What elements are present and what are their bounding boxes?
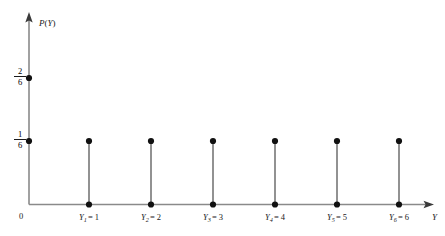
y-tick-marker-two-sixths xyxy=(26,75,32,81)
y-axis-title: P(Y) xyxy=(39,19,56,28)
data-point-3 xyxy=(210,138,216,144)
chart-canvas xyxy=(0,0,445,236)
baseline-point-5 xyxy=(334,201,340,207)
y-tick-one-sixth-numerator: 1 xyxy=(14,130,26,139)
x-tick-label-6: Y6= 6 xyxy=(389,213,409,223)
x-tick-6-value: = 6 xyxy=(397,212,409,222)
data-point-2 xyxy=(148,138,154,144)
x-tick-5-value: = 5 xyxy=(335,212,347,222)
x-tick-1-value: = 1 xyxy=(87,212,99,222)
data-point-6 xyxy=(396,138,402,144)
y-tick-two-sixths-numerator: 2 xyxy=(14,67,26,76)
data-point-5 xyxy=(334,138,340,144)
x-tick-4-value: = 4 xyxy=(273,212,285,222)
y-tick-marker-one-sixth xyxy=(26,138,32,144)
y-axis-title-close-paren: ) xyxy=(53,18,56,28)
y-tick-label-two-sixths: 2 6 xyxy=(14,67,26,87)
probability-mass-function-chart: P(Y) 2 6 1 6 0 Y1= 1 Y2= 2 Y3= 3 Y4= 4 Y… xyxy=(0,0,445,236)
x-tick-3-value: = 3 xyxy=(211,212,223,222)
x-tick-label-1: Y1= 1 xyxy=(79,213,99,223)
y-tick-two-sixths-denominator: 6 xyxy=(14,77,26,86)
x-axis-title: Y xyxy=(432,213,437,222)
data-point-1 xyxy=(86,138,92,144)
x-tick-label-2: Y2= 2 xyxy=(141,213,161,223)
baseline-point-3 xyxy=(210,201,216,207)
data-point-4 xyxy=(272,138,278,144)
x-tick-label-3: Y3= 3 xyxy=(203,213,223,223)
y-tick-one-sixth-denominator: 6 xyxy=(14,140,26,149)
x-tick-2-value: = 2 xyxy=(149,212,161,222)
origin-label: 0 xyxy=(19,212,23,221)
x-tick-label-4: Y4= 4 xyxy=(265,213,285,223)
baseline-point-1 xyxy=(86,201,92,207)
baseline-point-6 xyxy=(396,201,402,207)
baseline-point-2 xyxy=(148,201,154,207)
baseline-point-4 xyxy=(272,201,278,207)
x-tick-label-5: Y5= 5 xyxy=(327,213,347,223)
y-tick-label-one-sixth: 1 6 xyxy=(14,130,26,150)
